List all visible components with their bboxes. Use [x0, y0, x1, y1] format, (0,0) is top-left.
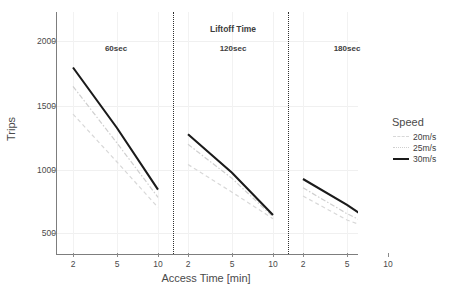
panel-label-180sec: 180sec — [334, 44, 361, 53]
x-tick-label: 2 — [301, 259, 306, 269]
x-tick-label: 5 — [230, 259, 235, 269]
legend-key-20ms-icon — [392, 131, 410, 142]
x-axis-line — [56, 254, 358, 255]
legend-label: 20m/s — [413, 132, 436, 142]
x-tick-label: 10 — [268, 259, 277, 269]
x-tick-label: 2 — [186, 259, 191, 269]
y-axis-title-label: Trips — [5, 117, 17, 141]
x-tick-label: 5 — [345, 259, 350, 269]
series-line-20ms-60sec — [73, 114, 158, 207]
series-line-30ms-60sec — [73, 68, 158, 190]
panel-separator — [173, 12, 174, 254]
x-tick-label: 10 — [153, 259, 162, 269]
figure-caption — [0, 290, 457, 299]
legend-item-20ms[interactable]: 20m/s — [392, 131, 456, 142]
legend-item-25ms[interactable]: 25m/s — [392, 142, 456, 153]
panel-label-60sec: 60sec — [105, 44, 127, 53]
legend-key-25ms-icon — [392, 142, 410, 153]
series-line-30ms-120sec — [188, 134, 273, 215]
legend-label: 30m/s — [413, 154, 436, 164]
legend-key-30ms-icon — [392, 153, 410, 164]
legend-label: 25m/s — [413, 143, 436, 153]
chart-figure: Trips 2000 1500 1000 500 Liftoff Time 60… — [0, 0, 457, 299]
plot-area — [57, 12, 358, 254]
y-axis-ticks: 2000 1500 1000 500 — [22, 0, 56, 258]
panel-separator — [288, 12, 289, 254]
y-axis-title: Trips — [2, 0, 20, 258]
legend-title: Speed — [392, 116, 456, 128]
facet-strip-title: Liftoff Time — [210, 24, 256, 34]
x-tick-label: 2 — [71, 259, 76, 269]
x-tick-label: 10 — [383, 259, 392, 269]
x-axis-title: Access Time [min] — [56, 272, 356, 284]
legend-item-30ms[interactable]: 30m/s — [392, 153, 456, 164]
legend: Speed 20m/s 25m/s 30m/s — [392, 116, 456, 164]
series-lines — [57, 12, 358, 254]
series-line-30ms-180sec — [303, 179, 358, 233]
panel-label-120sec: 120sec — [220, 44, 247, 53]
series-line-25ms-60sec — [73, 86, 158, 197]
series-line-25ms-120sec — [188, 144, 273, 217]
x-tick-label: 5 — [115, 259, 120, 269]
